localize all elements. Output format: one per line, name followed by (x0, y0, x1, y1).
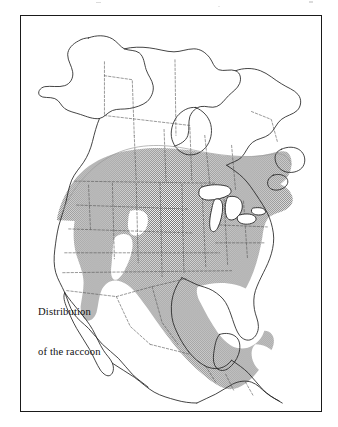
figure-root: Distribution of the raccoon (0, 0, 338, 427)
lake-ontario (251, 208, 265, 215)
lake-erie (237, 214, 256, 224)
scan-artifact-speck (218, 6, 220, 7)
scan-artifact-speck (96, 2, 101, 3)
map-caption: Distribution of the raccoon (38, 278, 101, 386)
map-frame: Distribution of the raccoon (20, 15, 322, 412)
caption-line-2: of the raccoon (38, 345, 101, 359)
caption-line-1: Distribution (38, 305, 101, 319)
scan-artifact-speck (309, 1, 313, 3)
